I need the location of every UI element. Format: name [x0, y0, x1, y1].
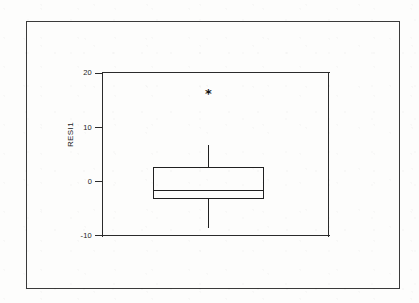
y-tick-label-0: 0: [66, 177, 92, 186]
figure-page: 20 10 0 -10 RESI1 *: [0, 0, 419, 303]
y-tick-label-neg10: -10: [66, 231, 92, 240]
median-line: [153, 190, 264, 191]
y-tick-mark-neg10: [95, 235, 102, 236]
outlier-marker: *: [203, 90, 215, 98]
x-axis-spine: [102, 235, 330, 236]
whisker-lower: [208, 199, 209, 228]
y-tick-mark-0: [95, 181, 102, 182]
y-tick-label-20: 20: [66, 68, 92, 77]
plot-frame-top: [102, 72, 330, 73]
y-tick-mark-10: [95, 127, 102, 128]
box-interquartile-range: [153, 167, 264, 199]
y-axis-spine: [102, 72, 103, 237]
whisker-upper: [208, 145, 209, 167]
y-axis-title: RESI1: [66, 109, 75, 161]
plot-frame-right: [328, 72, 329, 237]
y-tick-mark-20: [95, 73, 102, 74]
figure-outer-border: [26, 21, 400, 289]
